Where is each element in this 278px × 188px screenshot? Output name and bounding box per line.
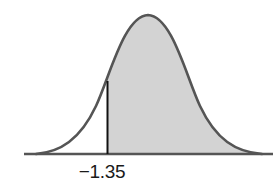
- normal-curve-svg: [0, 0, 278, 188]
- z-value-label: −1.35: [72, 161, 132, 183]
- shaded-area: [36, 15, 262, 154]
- normal-curve-figure: −1.35: [0, 0, 278, 188]
